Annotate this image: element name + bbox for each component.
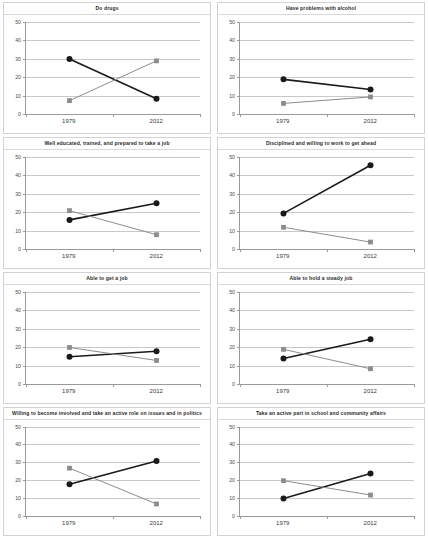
y-axis-tick-label: 20: [229, 209, 235, 215]
y-axis-labels: 01020304050: [6, 157, 23, 249]
chart-panel-inner: Disciplined and willing to work to get a…: [217, 137, 425, 269]
data-point-marker-square: [368, 366, 373, 371]
x-axis-labels: 19792012: [239, 517, 414, 531]
plot-wrapper: 0102030405019792012: [218, 150, 424, 268]
y-axis-tick-label: 0: [18, 381, 21, 387]
x-axis-tick-label: 2012: [364, 520, 377, 526]
x-axis-tick-label: 2012: [150, 520, 163, 526]
chart-panel-inner: Able to hold a steady job010203040501979…: [217, 272, 425, 404]
panel-row: Able to get a job0102030405019792012Able…: [0, 270, 428, 405]
data-point-marker-circle: [368, 336, 374, 342]
x-axis-tick-label: 1979: [276, 520, 289, 526]
y-axis-tick-label: 30: [229, 191, 235, 197]
x-axis-tick: [414, 114, 415, 117]
data-point-marker-circle: [154, 458, 160, 464]
x-axis-tick-label: 1979: [62, 388, 75, 394]
data-point-marker-circle: [67, 56, 73, 62]
marker-layer: [240, 22, 414, 114]
chart-panel: Well educated, trained, and prepared to …: [0, 135, 214, 270]
data-point-marker-circle: [154, 200, 160, 206]
data-point-marker-square: [67, 98, 72, 103]
data-point-marker-circle: [67, 353, 73, 359]
y-axis-tick-label: 30: [15, 56, 21, 62]
y-axis-tick-label: 10: [15, 93, 21, 99]
y-axis-tick-label: 0: [18, 513, 21, 519]
y-axis-tick-label: 10: [229, 495, 235, 501]
y-axis-labels: 01020304050: [6, 292, 23, 384]
data-point-marker-square: [368, 492, 373, 497]
data-point-marker-square: [281, 346, 286, 351]
data-point-marker-circle: [154, 348, 160, 354]
x-axis-tick: [200, 114, 201, 117]
y-axis-tick-label: 20: [15, 477, 21, 483]
y-axis-tick-label: 50: [229, 19, 235, 25]
data-point-marker-square: [154, 232, 159, 237]
plot-area: 0102030405019792012: [6, 423, 204, 534]
data-point-marker-circle: [368, 86, 374, 92]
plot-area: 0102030405019792012: [220, 288, 418, 402]
plot-wrapper: 0102030405019792012: [4, 420, 210, 535]
x-axis-tick-label: 1979: [62, 118, 75, 124]
x-axis-tick-label: 2012: [150, 253, 163, 259]
y-axis-tick-label: 0: [18, 111, 21, 117]
data-point-marker-square: [281, 101, 286, 106]
plot-canvas: [239, 292, 414, 384]
y-axis-tick-label: 30: [229, 459, 235, 465]
data-point-marker-circle: [281, 355, 287, 361]
y-axis-tick-label: 10: [15, 495, 21, 501]
y-axis-tick-label: 40: [15, 441, 21, 447]
x-axis-tick: [200, 384, 201, 387]
data-point-marker-circle: [281, 210, 287, 216]
plot-canvas: [25, 292, 200, 384]
y-axis-tick-label: 10: [15, 228, 21, 234]
data-point-marker-circle: [281, 495, 287, 501]
marker-layer: [26, 427, 200, 516]
x-axis-tick-label: 1979: [62, 253, 75, 259]
chart-panel-title: Do drugs: [4, 3, 210, 15]
chart-panel: Able to hold a steady job010203040501979…: [214, 270, 428, 405]
y-axis-tick-label: 40: [229, 37, 235, 43]
plot-area: 0102030405019792012: [220, 153, 418, 267]
marker-layer: [240, 292, 414, 384]
y-axis-tick-label: 30: [15, 191, 21, 197]
x-axis-labels: 19792012: [25, 250, 200, 264]
data-point-marker-circle: [154, 95, 160, 101]
x-axis-tick-label: 1979: [276, 118, 289, 124]
panel-row: Well educated, trained, and prepared to …: [0, 135, 428, 270]
y-axis-tick-label: 20: [15, 209, 21, 215]
marker-layer: [240, 157, 414, 249]
marker-layer: [240, 427, 414, 516]
x-axis-labels: 19792012: [25, 517, 200, 531]
chart-panel: Willing to become involved and take an a…: [0, 405, 214, 537]
x-axis-tick-label: 2012: [150, 388, 163, 394]
x-axis-tick: [414, 249, 415, 252]
x-axis-labels: 19792012: [239, 250, 414, 264]
y-axis-tick-label: 10: [15, 363, 21, 369]
y-axis-tick-label: 40: [15, 307, 21, 313]
plot-canvas: [25, 22, 200, 114]
data-point-marker-circle: [67, 481, 73, 487]
y-axis-tick-label: 30: [15, 459, 21, 465]
y-axis-tick-label: 20: [229, 74, 235, 80]
x-axis-tick-label: 1979: [276, 388, 289, 394]
y-axis-tick-label: 40: [15, 37, 21, 43]
y-axis-tick-label: 50: [15, 154, 21, 160]
marker-layer: [26, 157, 200, 249]
plot-wrapper: 0102030405019792012: [218, 285, 424, 403]
x-axis-labels: 19792012: [239, 115, 414, 129]
chart-panel-inner: Have problems with alcohol01020304050197…: [217, 2, 425, 134]
x-axis-tick-label: 2012: [364, 253, 377, 259]
y-axis-tick-label: 40: [229, 441, 235, 447]
small-multiples-chart-figure: Do drugs0102030405019792012Have problems…: [0, 0, 428, 537]
y-axis-tick-label: 50: [229, 154, 235, 160]
data-point-marker-square: [281, 224, 286, 229]
marker-layer: [26, 292, 200, 384]
plot-wrapper: 0102030405019792012: [218, 15, 424, 133]
plot-canvas: [239, 157, 414, 249]
chart-panel-inner: Do drugs0102030405019792012: [3, 2, 211, 134]
y-axis-tick-label: 20: [15, 344, 21, 350]
chart-panel-title: Able to get a job: [4, 273, 210, 285]
plot-canvas: [25, 157, 200, 249]
y-axis-tick-label: 0: [232, 111, 235, 117]
x-axis-tick: [200, 249, 201, 252]
